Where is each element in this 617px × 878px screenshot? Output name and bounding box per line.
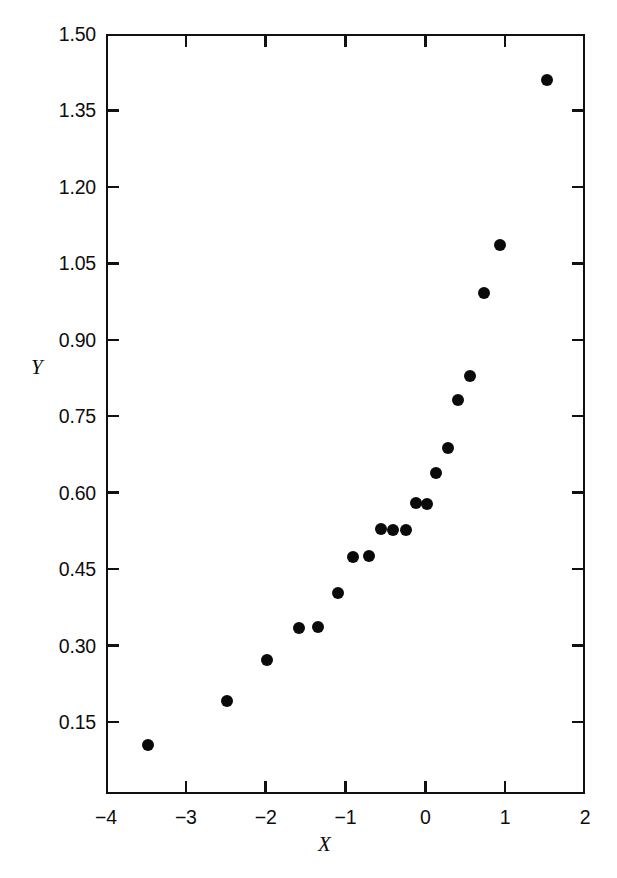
x-axis-tick [504, 781, 507, 794]
y-axis-tick [106, 491, 119, 494]
y-axis-tick [106, 721, 119, 724]
x-axis-tick [185, 781, 188, 794]
x-axis-title: X [318, 832, 331, 857]
x-axis-tick [424, 781, 427, 794]
y-axis-tick [106, 568, 119, 571]
y-axis-tick-label: 1.50 [59, 23, 96, 46]
y-axis-tick [106, 415, 119, 418]
y-axis-tick [106, 109, 119, 112]
y-axis-tick [572, 644, 585, 647]
y-axis-title: Y [31, 355, 43, 380]
x-axis-tick-label: −2 [255, 806, 277, 829]
scatter-plot-figure: 0.150.300.450.600.750.901.051.201.351.50… [0, 0, 617, 878]
x-axis-tick [264, 781, 267, 794]
y-axis-tick-label: 0.90 [59, 328, 96, 351]
y-axis-tick [106, 186, 119, 189]
y-axis-tick [572, 109, 585, 112]
x-axis-tick [424, 34, 427, 47]
y-axis-tick-label: 1.35 [59, 99, 96, 122]
y-axis-tick-label: 0.75 [59, 405, 96, 428]
x-axis-tick-label: 0 [420, 806, 431, 829]
x-axis-tick-label: −3 [175, 806, 197, 829]
x-axis-tick-label: 2 [580, 806, 591, 829]
x-axis-tick [504, 34, 507, 47]
x-axis-tick [264, 34, 267, 47]
y-axis-tick [572, 415, 585, 418]
y-axis-tick-labels: 0.150.300.450.600.750.901.051.201.351.50 [0, 0, 96, 878]
y-axis-tick [106, 644, 119, 647]
y-axis-tick-label: 0.30 [59, 634, 96, 657]
y-axis-tick [572, 186, 585, 189]
x-axis-tick-label: −1 [335, 806, 357, 829]
x-axis-tick [185, 34, 188, 47]
x-axis-tick-label: −4 [95, 806, 117, 829]
y-axis-tick [572, 491, 585, 494]
y-axis-tick [106, 262, 119, 265]
y-axis-tick-label: 0.45 [59, 558, 96, 581]
x-axis-tick [344, 781, 347, 794]
y-axis-tick [572, 721, 585, 724]
y-axis-tick [572, 339, 585, 342]
y-axis-tick [572, 262, 585, 265]
y-axis-tick-label: 0.60 [59, 481, 96, 504]
x-axis-tick-label: 1 [500, 806, 511, 829]
plot-axes-frame [106, 34, 585, 794]
x-axis-tick-labels: −4−3−2−1012 [0, 806, 617, 836]
y-axis-tick [106, 339, 119, 342]
y-axis-tick-label: 1.05 [59, 252, 96, 275]
y-axis-tick-label: 1.20 [59, 175, 96, 198]
y-axis-tick-label: 0.15 [59, 711, 96, 734]
x-axis-tick [344, 34, 347, 47]
y-axis-tick [572, 568, 585, 571]
